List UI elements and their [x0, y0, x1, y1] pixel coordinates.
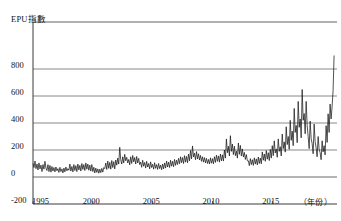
- y-axis-tick-label: 200: [11, 141, 37, 151]
- chart-container: EPU指數 8006004002000-200 1995200020052010…: [0, 0, 341, 221]
- x-axis-tick-label: 2005: [143, 196, 160, 206]
- x-axis-tick-label: 2015: [262, 196, 279, 206]
- x-axis-tick-label: 2010: [203, 196, 220, 206]
- y-axis-tick-label: 600: [11, 87, 37, 97]
- chart-plot-area: [0, 0, 341, 221]
- x-axis-tick-label: 2000: [83, 196, 100, 206]
- x-axis-unit-label: （年份）: [299, 196, 332, 207]
- y-axis-tick-label: 800: [11, 60, 37, 70]
- y-axis-tick-label: 0: [11, 168, 37, 178]
- y-axis-tick-label: 400: [11, 114, 37, 124]
- x-axis-tick-label: 1995: [32, 196, 49, 206]
- epu-index-line: [33, 56, 334, 174]
